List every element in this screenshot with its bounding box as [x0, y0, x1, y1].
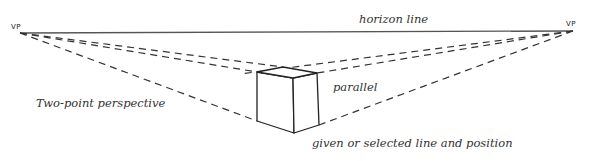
left-vp-line-to-top-back: [20, 33, 283, 67]
vp-left-label: VP: [11, 23, 21, 31]
right-vp-line-to-top-left: [240, 31, 573, 74]
box-left-face: [257, 72, 294, 133]
horizon-line-label: horizon line: [359, 12, 428, 26]
right-vp-line-to-top-right: [317, 31, 573, 73]
left-vp-line-to-top-left: [20, 33, 257, 72]
two-point-perspective-diagram: VP VP horizon line Two-point perspective…: [0, 0, 591, 161]
horizon-line: [20, 31, 573, 33]
parallel-label: parallel: [333, 80, 378, 94]
vp-right-label: VP: [566, 20, 576, 28]
two-point-perspective-label: Two-point perspective: [36, 96, 166, 110]
perspective-box: [257, 67, 319, 133]
box-right-face: [293, 73, 319, 133]
right-vp-line-to-bottom-right: [319, 31, 573, 125]
given-line-label: given or selected line and position: [312, 136, 513, 150]
